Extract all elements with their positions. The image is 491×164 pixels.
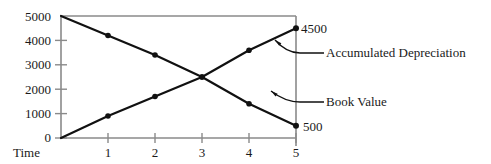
x-tick-label-1: 1 xyxy=(94,146,122,159)
y-tick-label-3000: 3000 xyxy=(0,58,51,71)
y-tick-label-1000: 1000 xyxy=(0,107,51,120)
book-value-point-5 xyxy=(293,123,299,129)
leader-line-book-value xyxy=(271,91,324,102)
y-tick-label-5000: 5000 xyxy=(0,10,51,23)
y-tick-label-2000: 2000 xyxy=(0,83,51,96)
accumulated-depreciation-point-5 xyxy=(293,25,299,31)
book-value-line xyxy=(61,16,296,126)
book-value-point-1 xyxy=(105,33,111,39)
series-book-value xyxy=(61,16,299,129)
depreciation-chart: 5000 4000 3000 2000 1000 0 Time 1 2 3 4 … xyxy=(0,0,491,164)
accumulated-depreciation-line xyxy=(61,28,296,138)
leader-lines xyxy=(271,40,324,102)
endpoint-label-4500: 4500 xyxy=(301,22,327,35)
y-tick-label-4000: 4000 xyxy=(0,34,51,47)
leader-line-accumulated-depreciation xyxy=(275,40,324,53)
x-tick-label-4: 4 xyxy=(235,146,263,159)
series-accumulated-depreciation xyxy=(61,25,299,138)
x-tick-label-5: 5 xyxy=(282,146,310,159)
accumulated-depreciation-point-3 xyxy=(199,74,205,80)
x-tick-label-2: 2 xyxy=(141,146,169,159)
accumulated-depreciation-point-4 xyxy=(246,47,252,53)
axes-frame xyxy=(61,16,296,146)
annotation-accumulated-depreciation: Accumulated Depreciation xyxy=(326,46,466,59)
book-value-point-2 xyxy=(152,52,158,58)
annotation-book-value: Book Value xyxy=(326,95,387,108)
x-axis-name: Time xyxy=(13,146,40,159)
accumulated-depreciation-point-2 xyxy=(152,94,158,100)
endpoint-label-500: 500 xyxy=(303,120,323,133)
y-tick-label-0: 0 xyxy=(0,131,51,144)
book-value-point-4 xyxy=(246,101,252,107)
x-tick-label-3: 3 xyxy=(188,146,216,159)
leader-arrowhead-book-value xyxy=(271,91,278,97)
accumulated-depreciation-point-1 xyxy=(105,113,111,119)
chart-canvas xyxy=(0,0,491,164)
